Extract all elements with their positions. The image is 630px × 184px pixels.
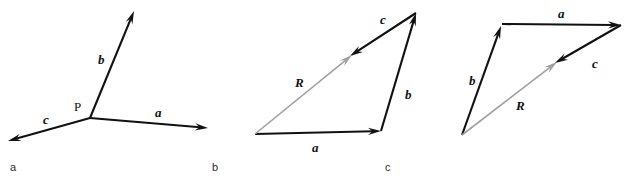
vector-a-panel-b xyxy=(255,128,381,135)
vector-label-a-panel-c: a xyxy=(558,7,565,20)
vector-shaft xyxy=(255,60,346,134)
vector-b-panel-c xyxy=(462,26,501,135)
vector-c-panel-c xyxy=(555,25,621,63)
vector-a-panel-a xyxy=(90,118,208,130)
vector-shaft xyxy=(16,118,90,139)
vector-b-panel-b xyxy=(381,13,416,131)
arrowhead-icon xyxy=(350,46,363,56)
vector-shaft xyxy=(381,21,414,131)
vector-shaft xyxy=(562,25,621,59)
vector-addition-figure: bacPaabcRbbacRc xyxy=(0,0,630,184)
vector-label-b-panel-a: b xyxy=(98,53,105,66)
vector-label-a-panel-a: a xyxy=(155,106,162,119)
vector-label-b-panel-b: b xyxy=(405,88,412,101)
vector-label-c-panel-a: c xyxy=(43,113,49,126)
vector-shaft xyxy=(462,34,498,135)
vector-R-panel-b xyxy=(255,55,352,134)
vector-a-panel-c xyxy=(502,21,621,28)
vector-shaft xyxy=(255,131,373,134)
panel-caption-b: b xyxy=(212,162,218,173)
vector-shaft xyxy=(502,24,613,25)
panel-caption-c: c xyxy=(385,162,391,173)
vector-label-c-panel-c: c xyxy=(592,57,598,70)
vector-label-R-panel-c: R xyxy=(516,99,525,112)
arrowhead-icon xyxy=(555,53,568,63)
vector-R-panel-c xyxy=(462,62,557,135)
vector-c-panel-a xyxy=(8,118,90,141)
vector-label-c-panel-b: c xyxy=(380,13,386,26)
vector-label-b-panel-c: b xyxy=(469,74,476,87)
vector-label-a-panel-b: a xyxy=(312,141,319,154)
panel-caption-a: a xyxy=(10,162,16,173)
vector-shaft xyxy=(90,18,131,118)
vector-b-panel-a xyxy=(90,11,134,118)
vector-diagram-svg xyxy=(0,0,630,184)
vector-shaft xyxy=(90,118,200,127)
vector-label-R-panel-b: R xyxy=(295,76,304,89)
origin-point-label-a: P xyxy=(74,100,81,113)
